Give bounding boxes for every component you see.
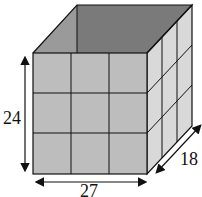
height-label: 24: [3, 108, 21, 128]
depth-label: 18: [180, 149, 198, 169]
front-face: [33, 53, 147, 174]
box-diagram: 24 27 18: [0, 0, 202, 197]
width-label: 27: [80, 181, 98, 197]
